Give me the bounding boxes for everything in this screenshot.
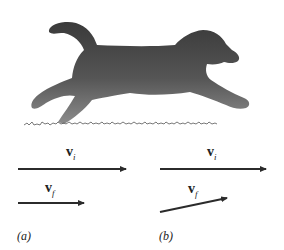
label-vi-a: vi [66, 144, 76, 162]
vector-vf-b [160, 198, 227, 212]
velocity-diagram: vi vf vi vf (a) (b) [0, 0, 284, 250]
label-vi-b: vi [207, 144, 217, 162]
dog-silhouette-icon [31, 22, 249, 124]
panel-label-a: (a) [17, 229, 31, 244]
label-vf-a: vf [45, 180, 55, 198]
label-vf-b: vf [188, 181, 198, 199]
grass-line [24, 122, 217, 125]
panel-label-b: (b) [159, 229, 173, 244]
